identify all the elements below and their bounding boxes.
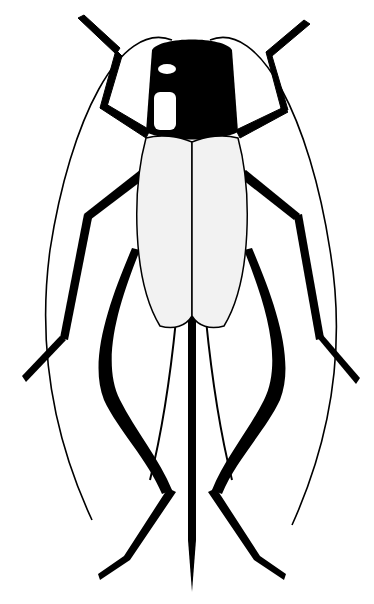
- ovipositor: [188, 310, 196, 592]
- wings: [137, 136, 247, 328]
- cricket-drawing: [0, 0, 374, 604]
- head-pronotum: [146, 40, 238, 140]
- cricket-illustration: [0, 0, 374, 604]
